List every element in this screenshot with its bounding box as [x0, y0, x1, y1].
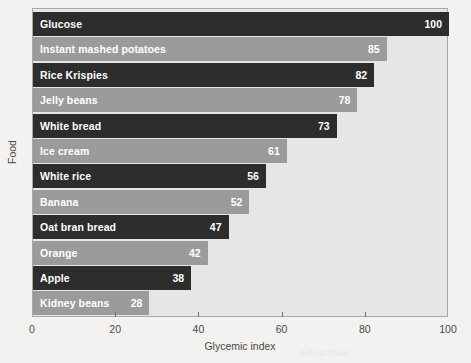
bar-row: Oat bran bread47	[33, 215, 447, 240]
x-axis-tick	[282, 312, 283, 317]
bar-category-label: Glucose	[33, 18, 82, 30]
bar-category-label: Banana	[33, 196, 79, 208]
bar: Kidney beans28	[33, 291, 149, 315]
x-axis-tick-label: 40	[193, 323, 205, 335]
bar-value-label: 47	[210, 221, 229, 233]
x-axis-title: Glycemic index	[32, 340, 448, 352]
x-axis-tick	[115, 312, 116, 317]
x-axis-tick	[198, 312, 199, 317]
bar-value-label: 82	[355, 69, 374, 81]
bar: Instant mashed potatoes85	[33, 37, 387, 61]
bar-value-label: 52	[231, 196, 250, 208]
bar-value-label: 56	[247, 170, 266, 182]
bar-category-label: Orange	[33, 247, 77, 259]
bar-row: Banana52	[33, 190, 447, 215]
bar-value-label: 38	[172, 272, 191, 284]
bar-row: Jelly beans78	[33, 88, 447, 113]
bar-category-label: Jelly beans	[33, 94, 98, 106]
bar-category-label: Oat bran bread	[33, 221, 116, 233]
bar-value-label: 28	[131, 297, 150, 309]
bar: White rice56	[33, 164, 266, 188]
x-axis-tick-label: 80	[359, 323, 371, 335]
bar: Glucose100	[33, 12, 449, 36]
x-axis-tick	[365, 312, 366, 317]
bar: Jelly beans78	[33, 88, 357, 112]
bar-row: Kidney beans28	[33, 291, 447, 316]
bar-category-label: Apple	[33, 272, 70, 284]
bar-row: Apple38	[33, 266, 447, 291]
bar: Apple38	[33, 266, 191, 290]
bar: Rice Krispies82	[33, 63, 374, 87]
bar-value-label: 78	[339, 94, 358, 106]
bar: White bread73	[33, 114, 337, 138]
x-axis-tick-label: 100	[439, 323, 457, 335]
y-axis-title: Food	[6, 122, 18, 182]
bar-row: Instant mashed potatoes85	[33, 37, 447, 62]
x-axis-tick-label: 20	[109, 323, 121, 335]
bar-category-label: White bread	[33, 120, 101, 132]
bar-row: White bread73	[33, 114, 447, 139]
bar-category-label: Instant mashed potatoes	[33, 43, 166, 55]
bar-row: Glucose100	[33, 12, 447, 37]
bar-row: Ice cream61	[33, 139, 447, 164]
bar-category-label: White rice	[33, 170, 91, 182]
bar-value-label: 85	[368, 43, 387, 55]
bar-category-label: Rice Krispies	[33, 69, 108, 81]
bar-row: Orange42	[33, 241, 447, 266]
bar-value-label: 100	[424, 18, 449, 30]
plot-area: Glucose100Instant mashed potatoes85Rice …	[32, 8, 448, 317]
bar-value-label: 61	[268, 145, 287, 157]
x-axis: 020406080100	[32, 317, 448, 318]
bar-value-label: 42	[189, 247, 208, 259]
bar-value-label: 73	[318, 120, 337, 132]
bar: Ice cream61	[33, 139, 287, 163]
chart-page: Build and Corbohydrweight watching the r…	[0, 0, 471, 363]
bar: Banana52	[33, 190, 249, 214]
bar: Oat bran bread47	[33, 215, 229, 239]
bar-series: Glucose100Instant mashed potatoes85Rice …	[33, 12, 447, 317]
x-axis-tick-label: 60	[276, 323, 288, 335]
bar-row: Rice Krispies82	[33, 63, 447, 88]
bar: Orange42	[33, 241, 208, 265]
bar-category-label: Kidney beans	[33, 297, 109, 309]
bar-row: White rice56	[33, 164, 447, 189]
bar-category-label: Ice cream	[33, 145, 89, 157]
x-axis-tick-label: 0	[29, 323, 35, 335]
